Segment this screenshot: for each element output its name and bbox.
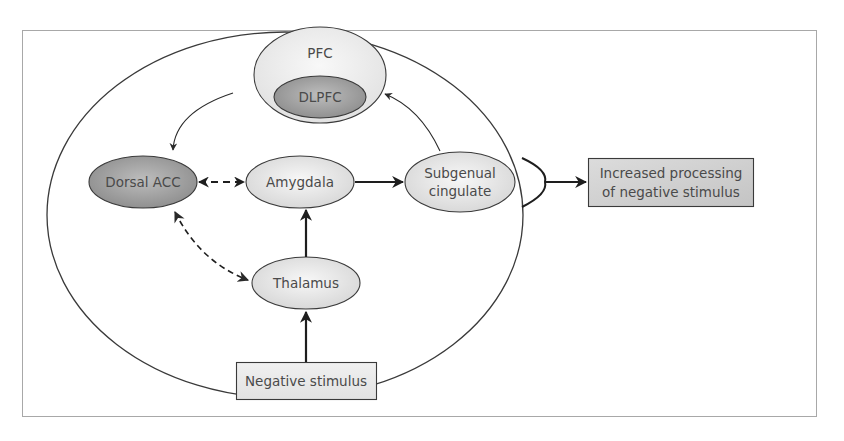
negative-stimulus-label: Negative stimulus [245,373,367,389]
node-subgenual-cingulate: Subgenual cingulate [405,152,515,212]
node-thalamus: Thalamus [252,257,360,309]
subgenual-cingulate-label-line1: Subgenual [424,165,496,181]
amygdala-label: Amygdala [266,174,334,190]
dorsal-acc-label: Dorsal ACC [105,174,180,190]
thalamus-label: Thalamus [272,275,339,291]
edge-subgenual-to-pfc [385,94,440,151]
depression-circuit-diagram: PFC DLPFC Dorsal ACC Amygdala Subgenual … [0,0,844,441]
increased-processing-label-line2: of negative stimulus [602,184,740,200]
subgenual-cingulate-label-line2: cingulate [429,183,491,199]
edge-pfc-to-dorsal-acc [173,93,233,150]
increased-processing-label-line1: Increased processing [600,165,743,181]
node-amygdala: Amygdala [246,156,354,208]
node-dlpfc: DLPFC [274,76,366,118]
figure-frame [23,31,817,417]
dlpfc-label: DLPFC [298,89,341,105]
pfc-label: PFC [307,45,332,61]
convergence-bracket [522,158,545,207]
edge-dorsal-acc-thalamus-dashed [175,212,248,280]
node-negative-stimulus: Negative stimulus [237,363,377,400]
node-dorsal-acc: Dorsal ACC [89,156,197,208]
node-increased-processing: Increased processing of negative stimulu… [589,159,754,207]
